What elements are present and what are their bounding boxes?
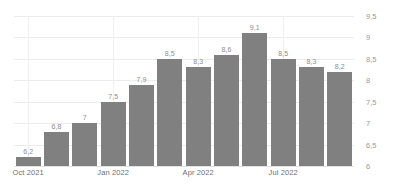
bar-value-label: 8,6: [221, 46, 231, 53]
y-axis: 66,577,588,599,5: [358, 0, 395, 190]
bar-value-label: 7,5: [108, 93, 118, 100]
bar-sep-2022[interactable]: 8,2: [327, 16, 352, 166]
bar-value-label: 8,2: [335, 63, 345, 70]
y-axis-tick-label: 9: [366, 33, 370, 42]
bars-layer: 6,26,877,57,98,58,38,69,18,58,38,2: [14, 16, 354, 166]
gridline-6: [14, 166, 354, 167]
bar-rect: [157, 59, 182, 166]
bar-rect: [299, 67, 324, 166]
y-axis-tick-label: 7,5: [366, 97, 376, 106]
x-axis-tick-label: Apr 2022: [183, 168, 214, 177]
bar-rect: [129, 85, 154, 166]
bar-jan-2022[interactable]: 7,5: [101, 16, 126, 166]
bar-oct-2021[interactable]: 6,2: [16, 16, 41, 166]
bar-rect: [44, 132, 69, 166]
x-axis-tick-label: Oct 2021: [13, 168, 44, 177]
y-axis-tick-label: 9,5: [366, 12, 376, 21]
bar-rect: [271, 59, 296, 166]
bar-value-label: 6,8: [51, 123, 61, 130]
x-axis-tick-label: Jan 2022: [97, 168, 129, 177]
y-axis-tick-label: 8,5: [366, 54, 376, 63]
bar-value-label: 7: [83, 114, 87, 121]
bar-value-label: 8,3: [193, 58, 203, 65]
bar-rect: [101, 102, 126, 166]
bar-value-label: 8,5: [278, 50, 288, 57]
bar-jul-2022[interactable]: 8,5: [271, 16, 296, 166]
bar-rect: [186, 67, 211, 166]
y-axis-tick-label: 7: [366, 119, 370, 128]
bar-value-label: 8,5: [165, 50, 175, 57]
bar-may-2022[interactable]: 8,6: [214, 16, 239, 166]
bar-rect: [242, 33, 267, 166]
bar-value-label: 6,2: [23, 148, 33, 155]
y-axis-tick-label: 6,5: [366, 140, 376, 149]
y-axis-tick-label: 8: [366, 76, 370, 85]
bar-value-label: 7,9: [136, 76, 146, 83]
bar-rect: [327, 72, 352, 166]
bar-rect: [214, 55, 239, 166]
bar-mar-2022[interactable]: 8,5: [157, 16, 182, 166]
bar-dec-2021[interactable]: 7: [72, 16, 97, 166]
bar-nov-2021[interactable]: 6,8: [44, 16, 69, 166]
x-axis: Oct 2021Jan 2022Apr 2022Jul 2022: [0, 168, 395, 182]
bar-feb-2022[interactable]: 7,9: [129, 16, 154, 166]
x-axis-tick-label: Jul 2022: [269, 168, 298, 177]
bar-rect: [72, 123, 97, 166]
bar-value-label: 9,1: [250, 24, 260, 31]
bar-value-label: 8,3: [306, 58, 316, 65]
bar-apr-2022[interactable]: 8,3: [186, 16, 211, 166]
bar-jun-2022[interactable]: 9,1: [242, 16, 267, 166]
bar-rect: [16, 157, 41, 166]
bar-chart: 6,26,877,57,98,58,38,69,18,58,38,2 66,57…: [0, 0, 395, 190]
bar-aug-2022[interactable]: 8,3: [299, 16, 324, 166]
plot-area: 6,26,877,57,98,58,38,69,18,58,38,2: [14, 16, 354, 166]
